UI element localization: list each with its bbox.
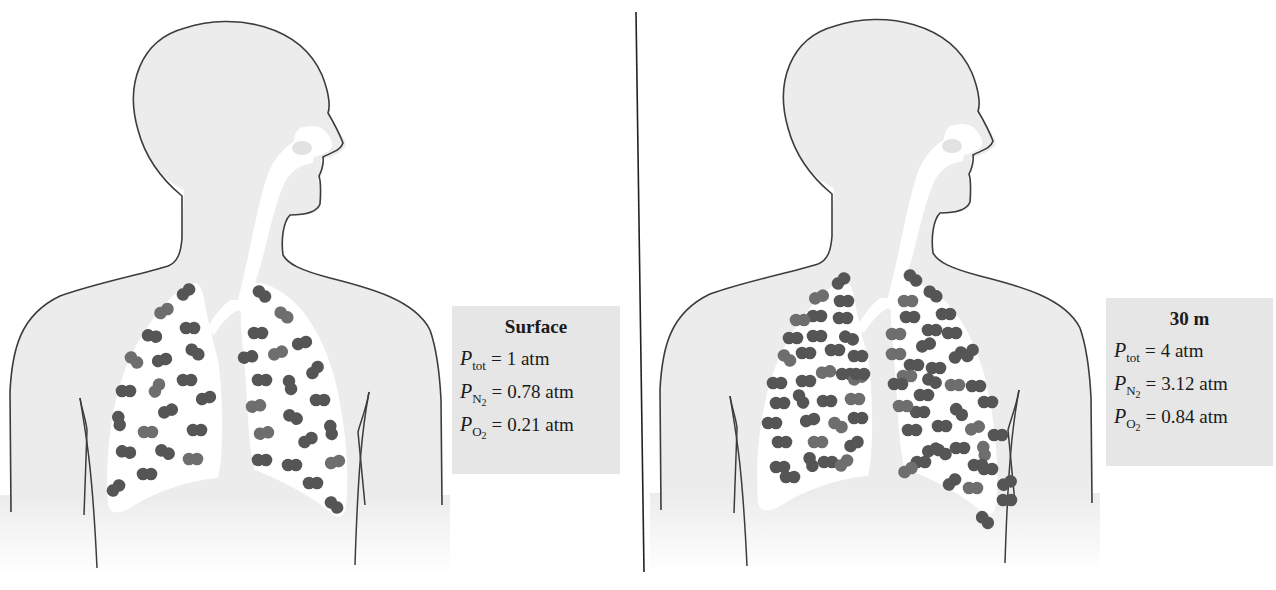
human-figure-surface bbox=[0, 22, 450, 575]
gas-molecule bbox=[137, 468, 158, 481]
pressure-value: 1 atm bbox=[507, 348, 550, 369]
gas-molecule bbox=[796, 375, 817, 388]
gas-molecule bbox=[978, 396, 999, 409]
gas-molecule bbox=[762, 417, 783, 430]
label-title-30m: 30 m bbox=[1114, 306, 1265, 332]
gas-molecule bbox=[807, 330, 828, 343]
gas-molecule bbox=[180, 322, 201, 335]
gas-molecule bbox=[966, 380, 987, 393]
gas-molecule bbox=[825, 344, 846, 357]
gas-molecule bbox=[850, 368, 871, 381]
label-surface: Surface Ptot=1 atm PN2=0.78 atm PO2=0.21… bbox=[452, 306, 620, 474]
gas-molecule bbox=[252, 454, 273, 467]
gas-molecule bbox=[177, 374, 198, 387]
pressure-total-surface: Ptot=1 atm bbox=[460, 342, 612, 375]
gas-molecule bbox=[303, 477, 324, 490]
gas-molecule bbox=[898, 295, 919, 308]
gas-molecule bbox=[834, 295, 855, 308]
pressure-value: 0.78 atm bbox=[507, 381, 574, 402]
gas-molecule bbox=[848, 412, 869, 425]
gas-molecule bbox=[888, 378, 909, 391]
gas-molecule bbox=[770, 397, 791, 410]
gas-molecule bbox=[796, 347, 817, 360]
gas-molecule bbox=[950, 442, 971, 455]
gas-molecule bbox=[116, 385, 137, 398]
gas-molecule bbox=[902, 424, 923, 437]
gas-molecule bbox=[790, 314, 811, 327]
pressure-n2-surface: PN2=0.78 atm bbox=[460, 375, 612, 408]
label-30m: 30 m Ptot=4 atm PN2=3.12 atm PO2=0.84 at… bbox=[1106, 298, 1273, 466]
gas-molecule bbox=[252, 374, 273, 387]
gas-molecule bbox=[248, 327, 269, 340]
pressure-value: 0.21 atm bbox=[507, 414, 574, 435]
gas-molecule bbox=[817, 395, 838, 408]
gas-molecule bbox=[914, 389, 935, 402]
pressure-value: 4 atm bbox=[1161, 340, 1204, 361]
gas-molecule bbox=[848, 350, 869, 363]
gas-molecule bbox=[886, 328, 907, 341]
pressure-value: 3.12 atm bbox=[1161, 373, 1228, 394]
gas-molecule bbox=[900, 311, 921, 324]
gas-molecule bbox=[936, 308, 957, 321]
gas-molecule bbox=[893, 400, 914, 413]
gas-molecule bbox=[945, 379, 966, 392]
gas-molecule bbox=[772, 436, 793, 449]
gas-molecule bbox=[988, 429, 1009, 442]
pressure-n2-30m: PN2=3.12 atm bbox=[1114, 367, 1265, 400]
gas-molecule bbox=[310, 394, 331, 407]
human-figure-30m bbox=[650, 20, 1100, 573]
gas-molecule bbox=[963, 482, 984, 495]
gas-molecule bbox=[187, 424, 208, 437]
gas-molecule bbox=[904, 359, 925, 372]
gas-molecule bbox=[997, 494, 1018, 507]
gas-molecule bbox=[932, 420, 953, 433]
gas-molecule bbox=[282, 459, 303, 472]
pressure-o2-30m: PO2=0.84 atm bbox=[1114, 400, 1265, 433]
gas-molecule bbox=[926, 362, 947, 375]
pressure-o2-surface: PO2=0.21 atm bbox=[460, 408, 612, 441]
pressure-value: 0.84 atm bbox=[1161, 406, 1228, 427]
gas-molecule bbox=[845, 393, 866, 406]
gas-molecule bbox=[942, 327, 963, 340]
gas-molecule bbox=[783, 332, 804, 345]
panel-divider bbox=[636, 12, 644, 572]
gas-molecule bbox=[978, 463, 999, 476]
gas-molecule bbox=[780, 471, 801, 484]
gas-molecule bbox=[922, 324, 943, 337]
gas-molecule bbox=[183, 453, 204, 466]
gas-molecule bbox=[833, 312, 854, 325]
gas-molecule bbox=[767, 377, 788, 390]
pressure-total-30m: Ptot=4 atm bbox=[1114, 334, 1265, 367]
gas-molecule bbox=[886, 348, 907, 361]
gas-molecule bbox=[138, 426, 159, 439]
diving-lungs-diagram bbox=[0, 0, 1276, 590]
gas-molecule bbox=[808, 436, 829, 449]
label-title-surface: Surface bbox=[460, 314, 612, 340]
